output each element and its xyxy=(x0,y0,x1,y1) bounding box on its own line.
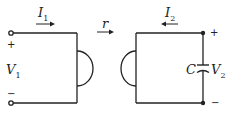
v1-label: V1 xyxy=(6,63,20,80)
r-label: r xyxy=(102,17,108,30)
right-semicircle xyxy=(121,51,136,86)
right-bottom-node xyxy=(201,101,205,105)
v2-label: V2 xyxy=(211,63,225,80)
left-top-terminal xyxy=(9,31,13,35)
left-semicircle xyxy=(77,51,93,86)
right-top-node xyxy=(201,31,205,35)
i1-label: I1 xyxy=(38,6,48,23)
left-bottom-terminal xyxy=(9,101,13,105)
i2-label: I2 xyxy=(165,6,175,23)
v2-minus-sign: − xyxy=(211,98,219,108)
circuit-diagram xyxy=(0,0,228,116)
capacitor-label: C xyxy=(186,63,196,76)
v1-plus-sign: + xyxy=(7,40,15,50)
left-circuit xyxy=(9,31,93,105)
v2-plus-sign: + xyxy=(210,28,218,38)
v1-minus-sign: − xyxy=(7,89,15,99)
